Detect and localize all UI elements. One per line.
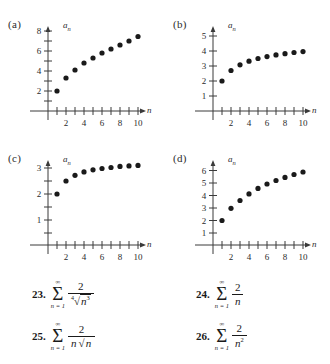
svg-text:8: 8: [118, 118, 123, 128]
svg-text:8: 8: [283, 118, 288, 128]
data-points-a: [54, 34, 140, 94]
plot-area-c: 123 24 6810: [0, 142, 165, 282]
sum-lower-limit-26: n = 1: [215, 344, 229, 352]
svg-text:2: 2: [64, 118, 69, 128]
svg-text:4: 4: [247, 118, 252, 128]
sigma-glyph-24: Σ: [216, 285, 227, 302]
numerator-24: 2: [232, 282, 244, 294]
exercise-number-26: 26.: [196, 330, 210, 342]
svg-text:1: 1: [202, 91, 207, 101]
radical-sign-icon-25: √: [76, 337, 84, 349]
svg-text:5: 5: [202, 178, 207, 188]
denominator-26: n2: [232, 336, 247, 349]
svg-text:2: 2: [37, 86, 42, 96]
svg-text:1: 1: [202, 228, 207, 238]
sum-lower-limit-23: n = 1: [51, 302, 65, 310]
svg-text:4: 4: [82, 118, 87, 128]
svg-text:6: 6: [100, 252, 105, 262]
plot-area-a: 24 68 24 6810: [0, 8, 165, 148]
sigma-glyph-25: Σ: [52, 327, 63, 344]
svg-text:2: 2: [202, 216, 207, 226]
summation-symbol-24: ∞ Σ n = 1: [215, 278, 229, 310]
svg-text:4: 4: [247, 252, 252, 262]
radicand-25: n: [85, 336, 93, 349]
svg-text:2: 2: [202, 76, 207, 86]
chart-panel-c: (c) an n 123 24: [0, 142, 165, 282]
summation-symbol-23: ∞ Σ n = 1: [51, 278, 65, 310]
radicand-power-26: 2: [240, 336, 243, 343]
textbook-page: (a) an n 24: [0, 0, 330, 364]
exercise-24[interactable]: 24. ∞ Σ n = 1 2 n: [196, 278, 243, 310]
sum-lower-limit-25: n = 1: [51, 344, 65, 352]
svg-text:8: 8: [283, 252, 288, 262]
data-points-c: [54, 163, 140, 197]
svg-text:6: 6: [202, 166, 207, 176]
exercise-list: 23. ∞ Σ n = 1 2 4√n3 24. ∞ Σ n = 1 2: [0, 276, 330, 364]
numerator-26: 2: [234, 323, 246, 335]
svg-text:4: 4: [202, 46, 207, 56]
svg-text:2: 2: [64, 252, 69, 262]
svg-text:8: 8: [118, 252, 123, 262]
exercise-number-24: 24.: [196, 288, 210, 300]
fraction-24: 2 n: [232, 282, 244, 307]
fraction-23: 2 4√n3: [68, 281, 94, 307]
radicand-power-23: 3: [86, 294, 89, 301]
svg-text:4: 4: [37, 66, 42, 76]
sum-lower-limit-24: n = 1: [215, 302, 229, 310]
plot-area-d: 12 34 56 24 6810: [165, 142, 330, 282]
data-points-b: [219, 49, 305, 84]
svg-text:6: 6: [100, 118, 105, 128]
svg-text:3: 3: [37, 163, 42, 173]
svg-text:10: 10: [134, 252, 144, 262]
svg-text:10: 10: [134, 118, 144, 128]
data-points-d: [219, 169, 305, 223]
chart-panel-a: (a) an n 24: [0, 8, 165, 148]
svg-text:4: 4: [202, 191, 207, 201]
svg-text:2: 2: [229, 252, 234, 262]
chart-panel-d: (d) an n 12 34: [165, 142, 330, 282]
exercise-number-25: 25.: [32, 330, 46, 342]
exercise-25[interactable]: 25. ∞ Σ n = 1 2 n √n: [32, 320, 95, 352]
svg-text:8: 8: [37, 26, 42, 36]
svg-text:6: 6: [265, 118, 270, 128]
svg-text:2: 2: [37, 189, 42, 199]
summation-symbol-25: ∞ Σ n = 1: [51, 320, 65, 352]
exercise-26[interactable]: 26. ∞ Σ n = 1 2 n2: [196, 320, 247, 352]
numerator-25: 2: [76, 324, 88, 336]
svg-text:5: 5: [202, 31, 207, 41]
svg-text:4: 4: [82, 252, 87, 262]
svg-text:3: 3: [202, 203, 207, 213]
svg-text:3: 3: [202, 61, 207, 71]
sigma-glyph-26: Σ: [216, 327, 227, 344]
plot-area-b: 12 345 24 6810: [165, 8, 330, 148]
svg-text:10: 10: [299, 118, 309, 128]
denominator-24: n: [232, 295, 244, 307]
chart-panel-b: (b) an n 12 345: [165, 8, 330, 148]
fraction-26: 2 n2: [232, 323, 247, 349]
svg-text:6: 6: [37, 46, 42, 56]
summation-symbol-26: ∞ Σ n = 1: [215, 320, 229, 352]
sigma-glyph-23: Σ: [52, 285, 63, 302]
svg-text:6: 6: [265, 252, 270, 262]
numerator-23: 2: [75, 281, 87, 293]
svg-text:10: 10: [299, 252, 309, 262]
denominator-23: 4√n3: [68, 294, 94, 307]
fraction-25: 2 n √n: [68, 324, 95, 349]
svg-text:1: 1: [37, 215, 42, 225]
svg-text:2: 2: [229, 118, 234, 128]
exercise-number-23: 23.: [32, 288, 46, 300]
denominator-25: n √n: [68, 337, 95, 349]
exercise-23[interactable]: 23. ∞ Σ n = 1 2 4√n3: [32, 278, 94, 310]
